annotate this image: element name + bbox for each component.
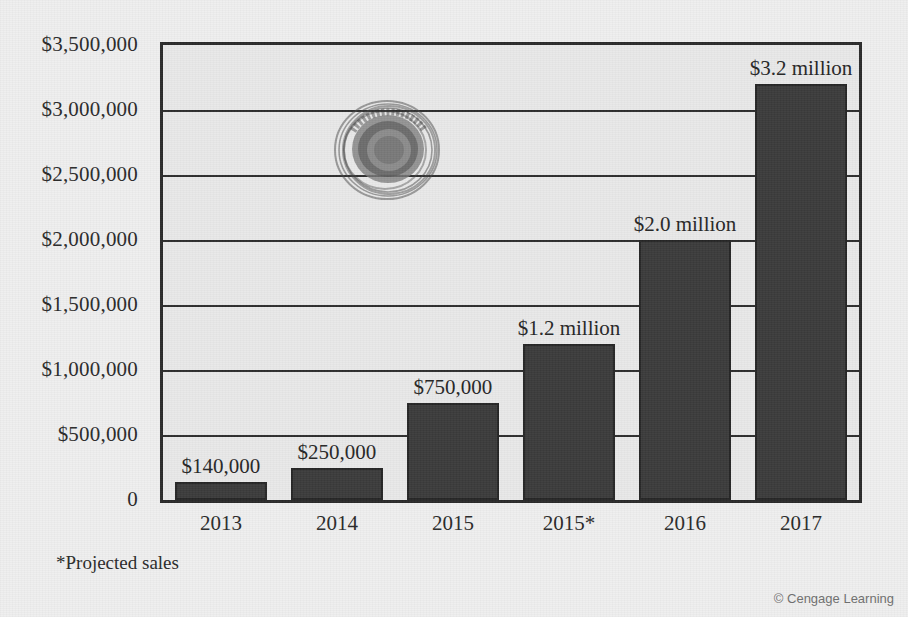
y-tick-label: $2,000,000 [0, 229, 148, 250]
bar [175, 482, 268, 500]
bar [291, 468, 384, 501]
bar-value-label: $2.0 million [613, 214, 757, 235]
bar-value-label: $1.2 million [497, 318, 641, 339]
y-axis: 0$500,000$1,000,000$1,500,000$2,000,000$… [0, 0, 148, 617]
x-tick-label: 2017 [743, 512, 859, 534]
footnote: *Projected sales [56, 553, 179, 573]
x-tick-label: 2015 [395, 512, 511, 534]
y-tick-label: $3,000,000 [0, 99, 148, 120]
bar-value-label: $3.2 million [729, 58, 873, 79]
copyright-credit: © Cengage Learning [774, 592, 894, 606]
y-tick-label: $2,500,000 [0, 164, 148, 185]
x-tick-label: 2014 [279, 512, 395, 534]
bar-value-label: $750,000 [381, 377, 525, 398]
y-tick-label: 0 [0, 489, 148, 510]
bar [523, 344, 616, 500]
bar-value-label: $250,000 [265, 442, 409, 463]
circular-emblem-watermark-icon [331, 97, 443, 201]
bar [407, 403, 500, 501]
x-tick-label: 2016 [627, 512, 743, 534]
x-tick-label: 2015* [511, 512, 627, 534]
x-tick-label: 2013 [163, 512, 279, 534]
y-tick-label: $1,000,000 [0, 359, 148, 380]
bar [755, 84, 848, 500]
bar [639, 240, 732, 500]
y-tick-label: $1,500,000 [0, 294, 148, 315]
y-tick-label: $500,000 [0, 424, 148, 445]
plot-area [160, 42, 862, 503]
y-tick-label: $3,500,000 [0, 34, 148, 55]
bar-chart-figure: 0$500,000$1,000,000$1,500,000$2,000,000$… [0, 0, 908, 617]
